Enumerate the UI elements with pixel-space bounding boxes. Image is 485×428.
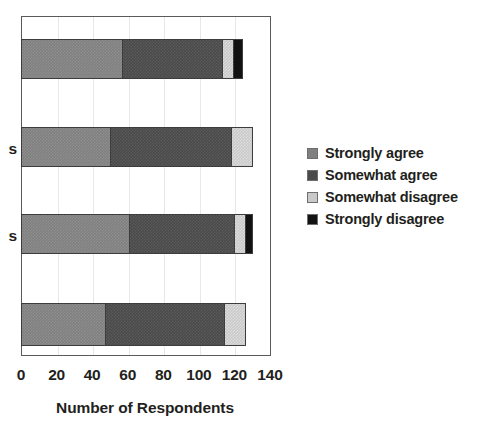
legend-swatch-somewhat-disagree <box>307 192 318 203</box>
plot-area <box>21 16 271 356</box>
bar-segment-somewhat-disagree[interactable] <box>224 303 246 346</box>
stacked-bar-chart: s s 0 20 40 60 80 100 120 140 Number of … <box>0 0 485 428</box>
bar-segment-somewhat-agree[interactable] <box>110 127 232 167</box>
x-tick-20: 20 <box>48 366 65 384</box>
legend-label: Strongly disagree <box>325 211 444 227</box>
x-tick-40: 40 <box>84 366 101 384</box>
legend-item-somewhat-agree[interactable]: Somewhat agree <box>307 164 458 186</box>
legend: Strongly agree Somewhat agree Somewhat d… <box>307 142 458 230</box>
bar-segment-strongly-disagree[interactable] <box>233 39 243 79</box>
x-tick-0: 0 <box>17 366 25 384</box>
legend-label: Somewhat agree <box>325 167 437 183</box>
bar-segment-strongly-agree[interactable] <box>21 127 111 167</box>
legend-item-strongly-agree[interactable]: Strongly agree <box>307 142 458 164</box>
bar-segment-strongly-agree[interactable] <box>21 303 106 346</box>
bar-segment-strongly-agree[interactable] <box>21 214 130 254</box>
bar-segment-somewhat-agree[interactable] <box>129 214 236 254</box>
bar-segment-strongly-agree[interactable] <box>21 39 123 79</box>
bar-segment-somewhat-agree[interactable] <box>105 303 225 346</box>
legend-label: Strongly agree <box>325 145 424 161</box>
x-tick-80: 80 <box>155 366 172 384</box>
bar-segment-somewhat-disagree[interactable] <box>231 127 253 167</box>
legend-item-strongly-disagree[interactable]: Strongly disagree <box>307 208 458 230</box>
x-tick-100: 100 <box>186 366 211 384</box>
x-axis-title: Number of Respondents <box>0 399 290 417</box>
legend-swatch-strongly-disagree <box>307 214 318 225</box>
legend-label: Somewhat disagree <box>325 189 458 205</box>
bar-segment-somewhat-agree[interactable] <box>122 39 223 79</box>
x-tick-120: 120 <box>222 366 247 384</box>
bar-segment-strongly-disagree[interactable] <box>245 214 253 254</box>
x-tick-60: 60 <box>119 366 136 384</box>
legend-swatch-somewhat-agree <box>307 170 318 181</box>
legend-swatch-strongly-agree <box>307 148 318 159</box>
legend-item-somewhat-disagree[interactable]: Somewhat disagree <box>307 186 458 208</box>
y-axis-label-row-2: s <box>0 227 17 245</box>
x-tick-140: 140 <box>257 366 282 384</box>
y-axis-label-row-1: s <box>0 140 17 158</box>
